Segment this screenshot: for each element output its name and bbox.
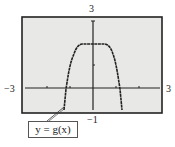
x-min-label: −3 <box>4 84 15 94</box>
y-min-label: −1 <box>87 115 98 125</box>
x-max-label: 3 <box>166 84 171 94</box>
plot-screen <box>22 17 162 113</box>
equation-label-box: y = g(x) <box>28 121 78 138</box>
y-max-label: 3 <box>89 4 94 14</box>
